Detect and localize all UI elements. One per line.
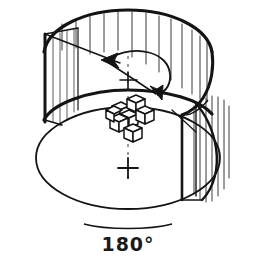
angle-label: 180° (101, 233, 154, 255)
rotation-diagram-svg: 180° (0, 0, 253, 262)
figure-root: 180° (0, 0, 253, 262)
